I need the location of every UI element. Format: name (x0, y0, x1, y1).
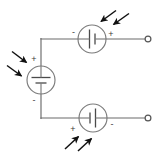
top-source-plus-label: + (108, 29, 113, 39)
output-terminal-top[interactable] (145, 36, 151, 42)
light-arrow-icon (12, 52, 27, 63)
light-arrow-icon (7, 66, 22, 77)
output-terminal-bottom[interactable] (145, 115, 151, 121)
light-arrows-bottom-source (65, 137, 92, 152)
top-source-minus-label: - (72, 27, 75, 37)
light-arrow-icon (78, 139, 92, 152)
left-source-minus-label: - (33, 95, 36, 105)
light-arrows-left-source (7, 52, 27, 77)
light-arrow-icon (65, 137, 79, 150)
bottom-source-minus-label: - (111, 119, 114, 129)
bottom-voltage-source[interactable]: + - (70, 104, 113, 134)
light-arrow-icon (114, 14, 130, 25)
bottom-source-plus-label: + (70, 124, 75, 134)
schematic-canvas: - + + - + - (0, 0, 165, 154)
light-arrow-icon (101, 11, 116, 22)
circuit-schematic: - + + - + - (0, 0, 165, 154)
left-source-plus-label: + (31, 54, 36, 64)
light-arrows-top-source (101, 11, 129, 25)
